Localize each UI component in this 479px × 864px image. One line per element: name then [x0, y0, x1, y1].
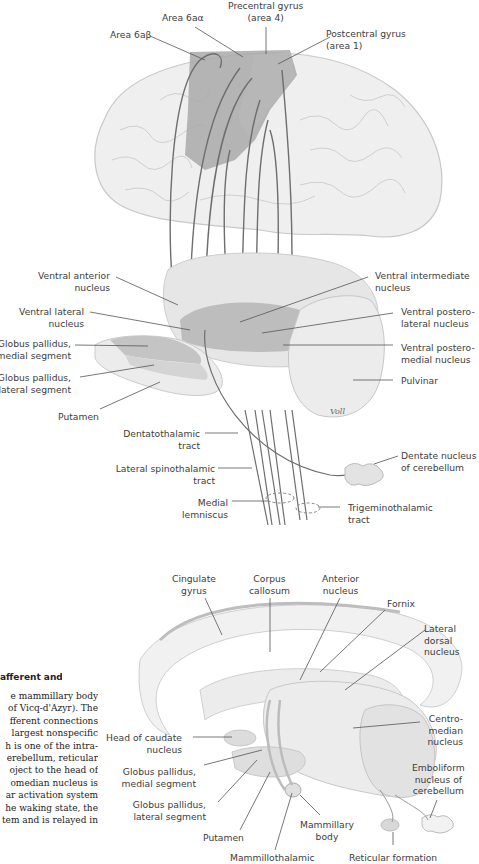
- label-line: nucleus of: [412, 774, 465, 786]
- label-ventral-posteromedial-nucleus: Ventral postero- medial nucleus: [401, 342, 475, 365]
- label-globus-pallidus-lateral: Globus pallidus, lateral segment: [0, 372, 71, 395]
- label-line: Corpus: [249, 573, 290, 585]
- label-line: Ventral lateral: [19, 306, 84, 318]
- label-line: tract: [348, 514, 433, 526]
- label-line: Ventral intermediate: [375, 270, 470, 282]
- label-line: body: [300, 831, 354, 843]
- label-line: Emboliform: [412, 762, 465, 774]
- label-globus-pallidus-medial-bottom: Globus pallidus, medial segment: [122, 766, 196, 789]
- text-line: h is one of the intra-: [0, 740, 98, 752]
- label-line: Globus pallidus,: [122, 766, 196, 778]
- label-line: dorsal: [424, 635, 460, 647]
- label-line: Fornix: [387, 598, 415, 610]
- label-line: tract: [123, 440, 200, 452]
- label-line: Mammillary: [300, 819, 354, 831]
- label-line: Putamen: [58, 411, 99, 423]
- label-line: Ventral postero-: [401, 306, 475, 318]
- label-line: (area 1): [326, 40, 406, 52]
- label-line: Globus pallidus,: [133, 799, 206, 811]
- svg-text:Voll: Voll: [330, 407, 345, 416]
- label-line: median: [427, 725, 463, 737]
- label-pulvinar: Pulvinar: [401, 375, 438, 387]
- label-area-6a-alpha: Area 6aα: [162, 12, 204, 24]
- label-line: medial nucleus: [401, 354, 475, 366]
- label-line: gyrus: [172, 585, 216, 597]
- label-line: Cingulate: [172, 573, 216, 585]
- label-emboliform-nucleus: Emboliform nucleus of cerebellum: [412, 762, 465, 797]
- label-line: Postcentral gyrus: [326, 28, 406, 40]
- text-line: fferent connections: [0, 715, 98, 727]
- text-line: ar activation system: [0, 789, 98, 801]
- label-line: nucleus: [38, 282, 110, 294]
- label-line: Mammillothalamic: [230, 852, 315, 864]
- label-anterior-nucleus: Anterior nucleus: [322, 573, 359, 596]
- label-ventral-posterolateral-nucleus: Ventral postero- lateral nucleus: [401, 306, 475, 329]
- label-putamen-top: Putamen: [58, 411, 99, 423]
- label-line: nucleus: [322, 585, 359, 597]
- label-precentral-gyrus: Precentral gyrus (area 4): [228, 0, 303, 23]
- label-mammillothalamic: Mammillothalamic: [230, 852, 315, 864]
- label-lateral-dorsal-nucleus: Lateral dorsal nucleus: [424, 623, 460, 658]
- label-line: Dentate nucleus: [401, 450, 476, 462]
- label-line: Dentatothalamic: [123, 428, 200, 440]
- label-line: Lateral: [424, 623, 460, 635]
- text-line: erebellum, reticular: [0, 752, 98, 764]
- label-line: nucleus: [375, 282, 470, 294]
- label-head-of-caudate: Head of caudate nucleus: [106, 732, 182, 755]
- dentate-nucleus-shape: [345, 463, 383, 485]
- label-line: Globus pallidus,: [0, 338, 71, 350]
- label-line: Centro-: [427, 713, 463, 725]
- body-text-column: e mammillary body of Vicq-d'Azyr). The f…: [0, 690, 98, 826]
- label-line: Precentral gyrus: [228, 0, 303, 12]
- label-line: Trigeminothalamic: [348, 502, 433, 514]
- text-line: e mammillary body: [0, 690, 98, 702]
- label-mammillary-body: Mammillary body: [300, 819, 354, 842]
- label-line: callosum: [249, 585, 290, 597]
- label-putamen-bottom: Putamen: [203, 832, 244, 844]
- label-lateral-spinothalamic-tract: Lateral spinothalamic tract: [116, 463, 215, 486]
- label-line: Pulvinar: [401, 375, 438, 387]
- label-line: of cerebellum: [401, 462, 476, 474]
- label-line: lemniscus: [182, 509, 228, 521]
- text-line: tem and is relayed in: [0, 814, 98, 826]
- label-line: lateral nucleus: [401, 318, 475, 330]
- label-line: medial segment: [122, 778, 196, 790]
- label-line: medial segment: [0, 350, 71, 362]
- text-line: oject to the head of: [0, 764, 98, 776]
- text-line: largest nonspecific: [0, 727, 98, 739]
- label-line: nucleus: [19, 318, 84, 330]
- label-line: Reticular formation: [349, 852, 437, 864]
- label-line: nucleus: [106, 744, 182, 756]
- label-line: nucleus: [427, 736, 463, 748]
- label-line: tract: [116, 475, 215, 487]
- label-line: Ventral postero-: [401, 342, 475, 354]
- label-line: lateral segment: [133, 811, 206, 823]
- label-line: Globus pallidus,: [0, 372, 71, 384]
- label-ventral-intermediate-nucleus: Ventral intermediate nucleus: [375, 270, 470, 293]
- label-trigeminothalamic-tract: Trigeminothalamic tract: [348, 502, 433, 525]
- text-line: he waking state, the: [0, 802, 98, 814]
- label-ventral-anterior-nucleus: Ventral anterior nucleus: [38, 270, 110, 293]
- label-postcentral-gyrus: Postcentral gyrus (area 1): [326, 28, 406, 51]
- label-fornix: Fornix: [387, 598, 415, 610]
- label-globus-pallidus-medial: Globus pallidus, medial segment: [0, 338, 71, 361]
- label-line: Area 6aα: [162, 12, 204, 24]
- section-heading: afferent and: [0, 672, 62, 682]
- label-line: Anterior: [322, 573, 359, 585]
- label-centromedian-nucleus: Centro- median nucleus: [427, 713, 463, 748]
- label-globus-pallidus-lateral-bottom: Globus pallidus, lateral segment: [133, 799, 206, 822]
- label-line: Head of caudate: [106, 732, 182, 744]
- label-cingulate-gyrus: Cingulate gyrus: [172, 573, 216, 596]
- label-line: (area 4): [228, 12, 303, 24]
- label-line: Putamen: [203, 832, 244, 844]
- label-area-6a-beta: Area 6aβ: [110, 29, 151, 41]
- label-line: Medial: [182, 497, 228, 509]
- label-dentate-nucleus: Dentate nucleus of cerebellum: [401, 450, 476, 473]
- label-line: Area 6aβ: [110, 29, 151, 41]
- label-medial-lemniscus: Medial lemniscus: [182, 497, 228, 520]
- text-line: omedian nucleus is: [0, 777, 98, 789]
- label-line: lateral segment: [0, 384, 71, 396]
- label-corpus-callosum: Corpus callosum: [249, 573, 290, 596]
- label-dentatothalamic-tract: Dentatothalamic tract: [123, 428, 200, 451]
- label-line: nucleus: [424, 646, 460, 658]
